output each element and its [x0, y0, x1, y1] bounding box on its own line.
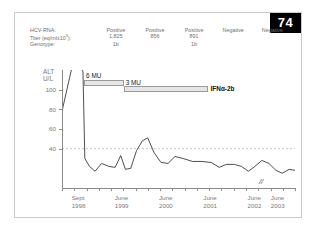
x-tick-mark: [123, 188, 124, 191]
titer-value-4: [214, 33, 253, 41]
x-tick-mark: [246, 188, 247, 191]
figure-panel: 74 HCV-RNA: Positive Positive Positive N…: [14, 12, 302, 218]
titer-value-5: [253, 33, 292, 41]
drug-name-label: IFNα-2b: [211, 85, 235, 92]
x-tick-label-month: June: [203, 194, 217, 202]
titer-value-2: 856: [135, 33, 174, 41]
genotype-value-2: [135, 41, 174, 47]
x-tick-label-month: Sept: [72, 194, 86, 202]
table-row: Genotype: 1b 1b: [30, 41, 292, 47]
y-axis-line: [62, 70, 63, 188]
y-axis-title: ALT U/L: [43, 68, 54, 83]
x-tick-label-3: June2001: [203, 194, 217, 209]
treatment-label-3mu: 3 MU: [126, 79, 141, 86]
x-tick-mark: [87, 188, 88, 191]
axis-break-marker: //: [259, 177, 263, 186]
y-tick-label-100: 100: [40, 86, 56, 93]
genotype-value-3: 1b: [175, 41, 214, 47]
y-tick-mark-60: [59, 129, 62, 130]
x-tick-label-year: 1999: [115, 202, 129, 210]
x-tick-label-year: 2002: [248, 202, 262, 210]
x-tick-label-1: June1999: [115, 194, 129, 209]
y-tick-label-80: 80: [40, 106, 56, 113]
x-tick-label-year: 2001: [203, 202, 217, 210]
titer-value-1: 1,825: [96, 33, 135, 41]
x-tick-label-0: Sept1998: [72, 194, 86, 209]
x-axis-line: [62, 188, 295, 189]
x-tick-mark: [62, 188, 63, 191]
x-tick-mark: [74, 188, 75, 191]
table-row: Titer (eq/mlx103): 1,825 856 891: [30, 33, 292, 41]
x-tick-mark: [197, 188, 198, 191]
y-axis-title-line2: U/L: [43, 75, 54, 82]
genotype-value-4: [214, 41, 253, 47]
y-tick-label-40: 40: [40, 145, 56, 152]
treatment-bar-3mu: [124, 86, 208, 92]
x-tick-label-4: June2002: [248, 194, 262, 209]
y-tick-mark-80: [59, 109, 62, 110]
x-tick-mark: [283, 188, 284, 191]
genotype-value-5: [253, 41, 292, 47]
titer-label-text: Titer (eq/mlx10: [30, 35, 66, 41]
titer-value-3: 891: [175, 33, 214, 41]
treatment-label-6mu: 6 MU: [86, 72, 101, 79]
x-tick-label-5: June2003: [271, 194, 285, 209]
chart-plot-area: 6 MU 3 MU IFNα-2b //: [62, 70, 295, 188]
x-tick-mark: [172, 188, 173, 191]
x-tick-mark: [111, 188, 112, 191]
x-tick-label-year: 2003: [271, 202, 285, 210]
x-tick-mark: [221, 188, 222, 191]
y-axis-title-line1: ALT: [43, 68, 54, 75]
figure-container: 74 HCV-RNA: Positive Positive Positive N…: [0, 0, 317, 231]
y-tick-mark-100: [59, 90, 62, 91]
x-tick-mark: [271, 188, 272, 191]
x-tick-label-2: June2000: [159, 194, 173, 209]
x-tick-mark: [160, 188, 161, 191]
titer-label-tail: ):: [68, 35, 71, 41]
x-tick-mark: [148, 188, 149, 191]
serology-table: HCV-RNA: Positive Positive Positive Nega…: [30, 27, 292, 47]
treatment-bar-6mu: [84, 80, 124, 86]
x-tick-label-year: 2000: [159, 202, 173, 210]
x-tick-label-month: June: [115, 194, 129, 202]
y-tick-mark-40: [59, 149, 62, 150]
x-tick-mark: [99, 188, 100, 191]
row-label-titer: Titer (eq/mlx103):: [30, 33, 96, 41]
x-tick-label-month: June: [159, 194, 173, 202]
x-tick-mark: [185, 188, 186, 191]
x-tick-mark: [136, 188, 137, 191]
y-tick-label-60: 60: [40, 125, 56, 132]
x-tick-mark: [295, 188, 296, 191]
row-label-genotype: Genotype:: [30, 41, 96, 47]
x-tick-label-year: 1998: [72, 202, 86, 210]
x-tick-label-month: June: [248, 194, 262, 202]
x-tick-mark: [258, 188, 259, 191]
x-tick-label-month: June: [271, 194, 285, 202]
genotype-value-1: 1b: [96, 41, 135, 47]
x-tick-mark: [209, 188, 210, 191]
x-tick-mark: [234, 188, 235, 191]
